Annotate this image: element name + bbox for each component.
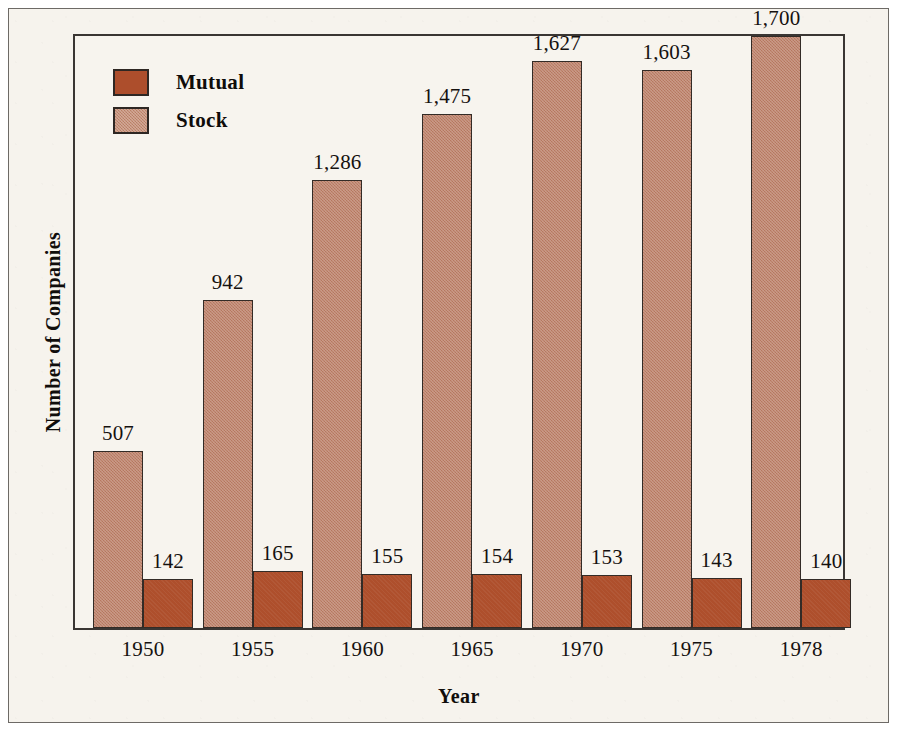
bar-value-label: 1,475 bbox=[423, 84, 471, 109]
bar-value-label: 1,286 bbox=[313, 150, 361, 175]
x-tick-1960: 1960 bbox=[341, 637, 384, 662]
bar-value-label: 507 bbox=[102, 421, 134, 446]
bar-group: 1,603143 bbox=[642, 36, 742, 628]
bar-mutual-1965: 154 bbox=[472, 574, 522, 628]
bar-value-label: 1,603 bbox=[642, 40, 690, 65]
x-axis-tick-labels: 1950195519601965197019751978 bbox=[73, 637, 845, 671]
bar-group: 1,627153 bbox=[532, 36, 632, 628]
bar-stock-1970: 1,627 bbox=[532, 61, 582, 628]
bar-value-label: 143 bbox=[701, 548, 733, 573]
bar-stock-1965: 1,475 bbox=[422, 114, 472, 628]
bar-value-label: 142 bbox=[152, 549, 184, 574]
bar-value-label: 165 bbox=[262, 541, 294, 566]
x-axis-title: Year bbox=[73, 685, 845, 708]
x-tick-1965: 1965 bbox=[451, 637, 494, 662]
bar-value-label: 153 bbox=[591, 545, 623, 570]
bar-group: 1,475154 bbox=[422, 36, 522, 628]
bar-group: 1,700140 bbox=[751, 36, 851, 628]
legend-item-stock: Stock bbox=[113, 101, 244, 139]
bar-mutual-1970: 153 bbox=[582, 575, 632, 628]
figure-frame: Number of Companies 5071429421651,286155… bbox=[8, 8, 889, 723]
bar-mutual-1955: 165 bbox=[253, 571, 303, 628]
bar-stock-1950: 507 bbox=[93, 451, 143, 628]
bar-value-label: 155 bbox=[371, 544, 403, 569]
x-tick-1978: 1978 bbox=[780, 637, 823, 662]
bar-value-label: 1,627 bbox=[533, 31, 581, 56]
x-tick-1975: 1975 bbox=[670, 637, 713, 662]
bar-mutual-1960: 155 bbox=[362, 574, 412, 628]
bar-value-label: 140 bbox=[810, 549, 842, 574]
bar-mutual-1978: 140 bbox=[801, 579, 851, 628]
bar-group: 1,286155 bbox=[312, 36, 412, 628]
chart-legend: Mutual Stock bbox=[113, 63, 244, 139]
legend-item-mutual: Mutual bbox=[113, 63, 244, 101]
y-axis-title: Number of Companies bbox=[37, 34, 69, 630]
bar-value-label: 942 bbox=[212, 270, 244, 295]
x-tick-1955: 1955 bbox=[231, 637, 274, 662]
bar-stock-1978: 1,700 bbox=[751, 36, 801, 628]
bar-stock-1960: 1,286 bbox=[312, 180, 362, 628]
bar-mutual-1975: 143 bbox=[692, 578, 742, 628]
x-tick-1970: 1970 bbox=[560, 637, 603, 662]
bar-mutual-1950: 142 bbox=[143, 579, 193, 628]
bar-value-label: 1,700 bbox=[752, 6, 800, 31]
plot-area: 5071429421651,2861551,4751541,6271531,60… bbox=[73, 34, 845, 630]
bar-value-label: 154 bbox=[481, 544, 513, 569]
legend-label-mutual: Mutual bbox=[176, 70, 244, 95]
stock-swatch-icon bbox=[113, 107, 149, 134]
x-tick-1950: 1950 bbox=[121, 637, 164, 662]
bar-stock-1975: 1,603 bbox=[642, 70, 692, 628]
legend-label-stock: Stock bbox=[176, 108, 228, 133]
mutual-swatch-icon bbox=[113, 69, 149, 96]
bar-stock-1955: 942 bbox=[203, 300, 253, 628]
